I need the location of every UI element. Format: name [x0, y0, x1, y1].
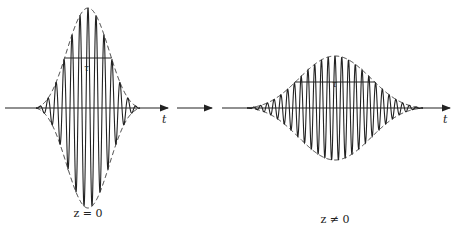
- left-axis-label: t: [162, 113, 166, 126]
- left-width-label: τ: [84, 63, 89, 73]
- left-caption: z = 0: [73, 207, 102, 220]
- right-caption: z ≠ 0: [320, 213, 349, 226]
- right-axis-label: t: [443, 113, 447, 126]
- pulse-diagram: [0, 0, 457, 233]
- carrier-wave: [36, 8, 140, 206]
- right-width-label: τ: [332, 79, 337, 89]
- lower-envelope: [247, 108, 423, 160]
